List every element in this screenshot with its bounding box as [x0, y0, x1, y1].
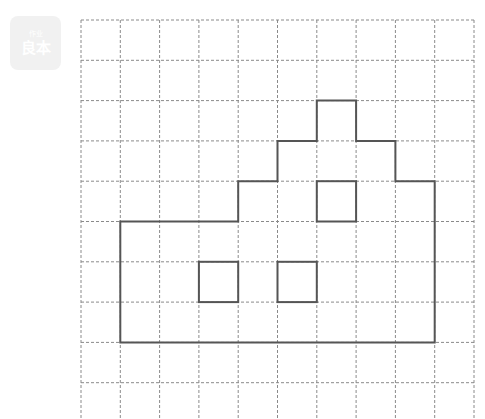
- dashed-grid: [81, 20, 474, 419]
- inner-square: [278, 262, 317, 302]
- inner-square: [317, 181, 356, 221]
- grid-diagram: [0, 0, 485, 419]
- inner-square: [199, 262, 238, 302]
